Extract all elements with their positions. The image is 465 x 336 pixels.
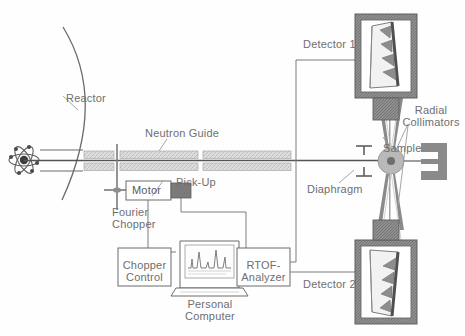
label-detector-1: Detector 1 bbox=[303, 38, 356, 50]
detector1-collimator-neck bbox=[373, 98, 399, 120]
label-rtof-analyzer: RTOF- Analyzer bbox=[237, 259, 290, 283]
detector2-collimator-neck bbox=[373, 220, 399, 240]
label-reactor: Reactor bbox=[66, 92, 106, 104]
detector-1 bbox=[355, 14, 417, 98]
beam-stop bbox=[421, 143, 447, 180]
label-detector-2: Detector 2 bbox=[303, 278, 356, 290]
detector-2 bbox=[355, 240, 417, 324]
label-sample: Sample bbox=[383, 142, 422, 154]
diagram-canvas: Reactor Neutron Guide Pick-Up Motor Four… bbox=[0, 0, 465, 336]
label-chopper-control: Chopper Control bbox=[118, 259, 171, 283]
label-diaphragm: Diaphragm bbox=[307, 183, 363, 195]
label-motor: Motor bbox=[132, 184, 161, 196]
label-radial-collimators: Radial Collimators bbox=[398, 104, 464, 128]
label-fourier-chopper: Fourier Chopper bbox=[112, 206, 156, 230]
schematic-svg bbox=[0, 0, 465, 336]
label-neutron-guide: Neutron Guide bbox=[145, 127, 219, 139]
reactor-wall bbox=[62, 27, 85, 200]
label-pick-up: Pick-Up bbox=[176, 176, 216, 188]
label-personal-computer: Personal Computer bbox=[165, 298, 255, 322]
